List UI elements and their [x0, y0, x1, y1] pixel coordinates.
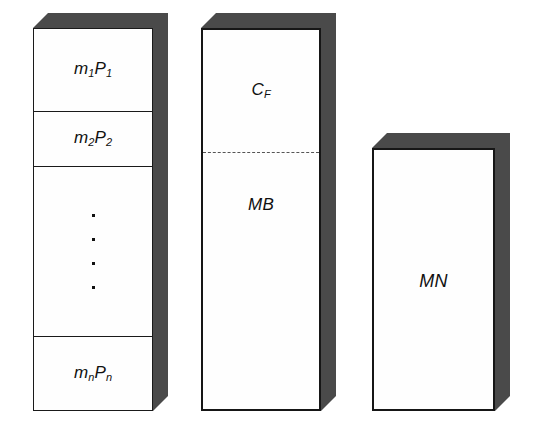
ellipsis-dot: [92, 262, 95, 265]
bar-2-segment-mb-label: MB: [248, 196, 274, 213]
bar-3-front-face: MN: [372, 148, 495, 411]
bar-1-segment-1-label: m1P1: [74, 60, 112, 79]
bar-2-segment-cf: CF: [203, 30, 319, 152]
bar-1-segment-2: m2P2: [34, 111, 152, 166]
bar-3: MN: [372, 133, 510, 411]
vertical-ellipsis-icon: [92, 214, 95, 289]
bar-3-segment-mn-label: MN: [419, 272, 447, 290]
bar-1-segment-4-label: mnPn: [74, 364, 112, 383]
bar-2-segment-cf-label: CF: [251, 81, 270, 100]
bar-1: m1P1 m2P2 mnPn: [33, 13, 168, 411]
ellipsis-dot: [92, 214, 95, 217]
bar-2-top-face: [201, 13, 336, 28]
bar-2-front-face: CF MB: [201, 28, 321, 411]
bar-1-segment-2-label: m2P2: [74, 129, 112, 148]
bar-3-top-face: [372, 133, 510, 148]
ellipsis-dot: [92, 238, 95, 241]
bar-1-segment-3-ellipsis: [34, 166, 152, 336]
bar-2-segment-mb: MB: [203, 152, 319, 411]
bar-2: CF MB: [201, 13, 336, 411]
bar-1-segment-1: m1P1: [34, 29, 152, 111]
ellipsis-dot: [92, 286, 95, 289]
bar-1-top-face: [33, 13, 168, 28]
bar-1-front-face: m1P1 m2P2 mnPn: [33, 28, 153, 411]
figure-canvas: m1P1 m2P2 mnPn CF: [0, 0, 534, 430]
bar-3-segment-mn: MN: [374, 150, 493, 411]
bar-1-segment-4: mnPn: [34, 336, 152, 410]
